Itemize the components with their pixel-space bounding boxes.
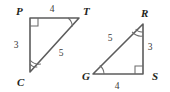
triangle-RGS: R G S 5 3 4: [82, 7, 158, 91]
side-label-GR: 5: [108, 33, 113, 43]
side-label-PC: 3: [14, 40, 19, 50]
geometry-canvas: P T C 4 3 5 R G S 5 3 4: [0, 0, 170, 92]
vertex-label-S: S: [152, 70, 158, 82]
vertex-label-G: G: [82, 70, 90, 82]
side-label-RS: 3: [148, 42, 153, 52]
vertex-label-R: R: [140, 7, 148, 19]
right-angle-mark-S: [135, 66, 143, 74]
vertex-label-C: C: [17, 76, 25, 88]
triangle-PTC: P T C 4 3 5: [14, 4, 91, 88]
vertex-label-P: P: [16, 5, 23, 17]
side-label-PT: 4: [50, 4, 55, 14]
geometry-figure: P T C 4 3 5 R G S 5 3 4: [0, 0, 170, 92]
vertex-label-T: T: [83, 5, 91, 17]
right-angle-mark-P: [30, 18, 38, 26]
side-label-CT: 5: [59, 48, 64, 58]
side-label-GS: 4: [115, 81, 120, 91]
double-arc-R-inner: [136, 29, 143, 32]
